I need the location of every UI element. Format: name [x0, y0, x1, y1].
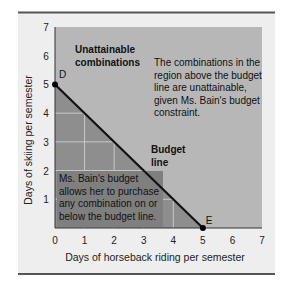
y-tick-label: 3 [43, 137, 49, 148]
point-d-marker [52, 81, 58, 87]
chart-svg: DE012345671234567Days of horseback ridin… [0, 0, 288, 291]
unattainable-label-line2: combinations [75, 57, 140, 68]
x-tick-label: 2 [111, 235, 117, 246]
unattainable-note-line: region above the budget [154, 70, 262, 81]
x-tick-label: 1 [82, 235, 88, 246]
y-tick-label: 2 [43, 166, 49, 177]
y-tick-label: 6 [43, 51, 49, 62]
x-tick-label: 4 [171, 235, 177, 246]
point-e-label: E [206, 215, 213, 226]
attainable-note-line: Ms. Bain's budget [59, 173, 138, 184]
x-tick-label: 6 [230, 235, 236, 246]
unattainable-note-line: The combinations in the [154, 57, 261, 68]
x-tick-label: 5 [200, 235, 206, 246]
attainable-note-line: allows her to purchase [59, 186, 159, 197]
attainable-note-line: below the budget line. [59, 211, 156, 222]
y-tick-label: 7 [43, 22, 49, 33]
x-tick-label: 3 [141, 235, 147, 246]
attainable-note-line: any combination on or [59, 198, 158, 209]
point-d-label: D [59, 69, 66, 80]
y-tick-label: 1 [43, 194, 49, 205]
y-axis-label: Days of skiing per semester [22, 75, 34, 205]
unattainable-label-line1: Unattainable [75, 44, 135, 55]
unattainable-note-line: constraint. [154, 107, 200, 118]
x-tick-label: 0 [52, 235, 58, 246]
budget-line-figure: DE012345671234567Days of horseback ridin… [0, 0, 288, 291]
y-tick-label: 4 [43, 108, 49, 119]
unattainable-note-line: given Ms. Bain's budget [154, 95, 260, 106]
budget-line-label-line1: Budget [151, 144, 186, 155]
budget-line-label-line2: line [151, 157, 169, 168]
unattainable-note-line: line are unattainable, [154, 82, 247, 93]
x-axis-label: Days of horseback riding per semester [65, 251, 245, 263]
y-tick-label: 5 [43, 79, 49, 90]
x-tick-label: 7 [259, 235, 265, 246]
